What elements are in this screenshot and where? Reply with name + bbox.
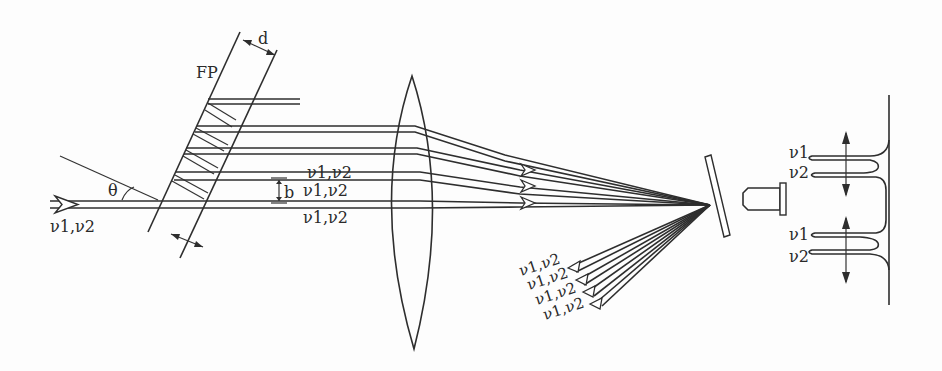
spacing-indicator: d [243, 29, 275, 55]
reflected-labels: ν1,ν2 ν1,ν2 ν1,ν2 ν1,ν2 [517, 250, 587, 324]
beam-freq-label-3: ν1,ν2 [303, 208, 348, 227]
optical-setup-diagram: d FP θ ν1,ν2 ν1,ν2 ν1 [0, 0, 942, 371]
arrow-icon [568, 261, 580, 272]
fringe-profile: ν1 ν2 ν1 ν2 [789, 95, 889, 305]
detector [743, 183, 786, 215]
internal-reflections [172, 103, 236, 199]
input-beam: ν1,ν2 [50, 196, 160, 236]
focusing-lens [391, 76, 432, 349]
tilt-arrow [171, 234, 203, 247]
arrow-icon [576, 274, 588, 285]
tilted-mirror [705, 155, 730, 237]
fringe-label-top-2: ν2 [789, 163, 809, 182]
fringe-label-bottom-2: ν2 [789, 247, 809, 266]
separation-marker: b [271, 178, 294, 203]
fringe-label-bottom-1: ν1 [789, 225, 809, 244]
arrow-icon [521, 180, 535, 192]
spacing-label: d [258, 29, 268, 48]
arrow-icon [583, 286, 595, 297]
beam-freq-label-2: ν1,ν2 [303, 181, 348, 200]
etalon-label: FP [196, 63, 218, 82]
input-freq-label: ν1,ν2 [50, 217, 95, 236]
angle-label: θ [108, 181, 118, 200]
fringe-curve [809, 140, 889, 270]
arrow-icon [590, 298, 602, 309]
beam-freq-label-1: ν1,ν2 [307, 163, 352, 182]
transmitted-beams [160, 99, 710, 208]
separation-label: b [284, 183, 294, 202]
input-arrow-icon [55, 196, 78, 213]
fringe-label-top-1: ν1 [789, 143, 809, 162]
diagram-canvas: d FP θ ν1,ν2 ν1,ν2 ν1 [0, 0, 942, 371]
